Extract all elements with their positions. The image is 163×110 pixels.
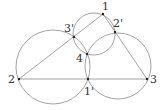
label-p2p: 2': [113, 17, 123, 30]
miquel-diagram: 12341'2'3': [0, 0, 163, 110]
point-p1p: [87, 78, 89, 80]
label-p1p: 1': [84, 85, 94, 98]
point-p2p: [114, 31, 116, 33]
triangle-segments: [19, 14, 147, 79]
points-group: [18, 13, 148, 80]
label-p3p: 3': [64, 22, 74, 35]
label-p3: 3: [150, 73, 157, 86]
segment-2-1: [19, 14, 103, 79]
point-p3p: [73, 36, 75, 38]
labels-group: 12341'2'3': [8, 0, 157, 98]
label-p2: 2: [8, 73, 15, 86]
segment-1-3: [103, 14, 147, 79]
label-p1: 1: [102, 0, 109, 13]
point-p3: [146, 78, 148, 80]
label-p4: 4: [76, 52, 83, 65]
point-p2: [18, 78, 20, 80]
point-p4: [86, 53, 88, 55]
circle-through-3-1p-2p: [85, 33, 151, 99]
point-p1: [102, 13, 104, 15]
circle-through-2-3p-1p: [16, 30, 90, 104]
